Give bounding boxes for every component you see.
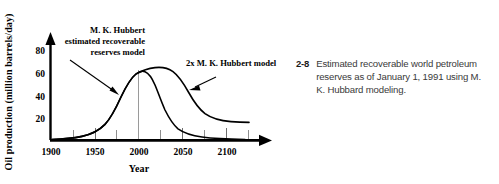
double-hubbert-model-annotation: 2x M. K. Hubbert model — [186, 58, 277, 91]
y-tick-label-40: 40 — [36, 92, 46, 102]
double-hubbert-annotation-arrowhead — [189, 86, 201, 91]
x-tick-label-2000: 2000 — [130, 147, 149, 157]
double-hubbert-annotation-line-1: 2x M. K. Hubbert model — [186, 58, 277, 68]
hubbert-annotation-line-2: estimated recoverable — [65, 36, 145, 46]
figure-caption: 2-8 Estimated recoverable world petroleu… — [296, 57, 496, 97]
x-tick-label-1900: 1900 — [42, 147, 61, 157]
x-tick-label-2100: 2100 — [218, 147, 237, 157]
series-hubbert-curve — [52, 71, 245, 139]
chart-svg: 80 60 40 20 1900 1950 2000 2050 2100 Yea… — [0, 0, 290, 184]
y-tick-label-20: 20 — [36, 114, 46, 124]
hubbert-annotation-arrowhead — [110, 87, 120, 96]
hubbert-annotation-line-1: M. K. Hubbert — [90, 25, 145, 35]
x-axis-arrowhead — [259, 135, 272, 146]
hubbert-annotation-line-3: reserves model — [91, 47, 146, 57]
figure-caption-text: Estimated recoverable world petroleum re… — [316, 57, 484, 97]
y-axis-arrowhead — [45, 32, 55, 45]
y-tick-label-60: 60 — [36, 69, 46, 79]
figure-2-8: Oil production (million barrels/day) — [0, 0, 499, 184]
figure-caption-number: 2-8 — [296, 57, 309, 70]
x-tick-label-1950: 1950 — [86, 147, 105, 157]
chart-area: Oil production (million barrels/day) — [0, 0, 290, 184]
double-hubbert-annotation-arrow-shaft — [195, 77, 216, 87]
series-2x-hubbert-curve — [52, 67, 249, 139]
x-tick-label-2050: 2050 — [174, 147, 193, 157]
y-tick-label-80: 80 — [36, 46, 46, 56]
x-axis-title: Year — [129, 163, 150, 174]
hubbert-model-annotation: M. K. Hubbert estimated recoverable rese… — [65, 25, 146, 95]
hubbert-annotation-arrow-shaft — [70, 60, 114, 91]
